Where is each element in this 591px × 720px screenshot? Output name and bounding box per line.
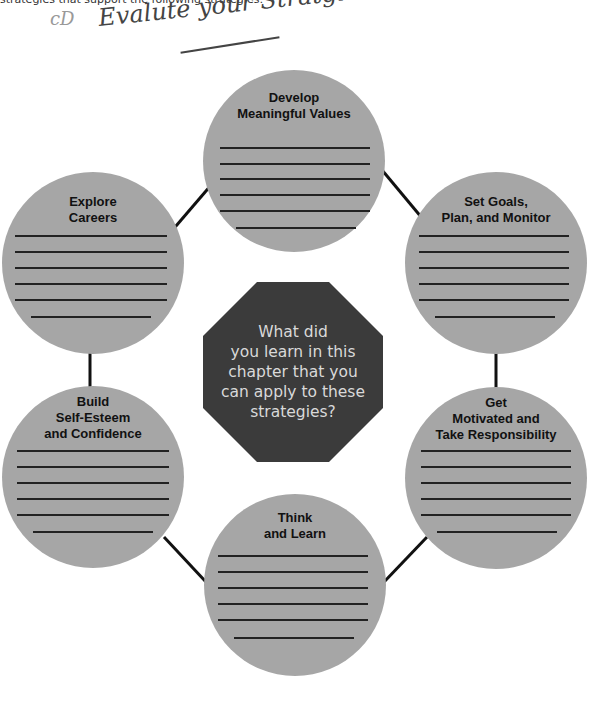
answer-line[interactable] <box>419 283 569 285</box>
answer-line[interactable] <box>220 178 370 180</box>
answer-line[interactable] <box>15 267 167 269</box>
answer-line[interactable] <box>15 283 167 285</box>
answer-line[interactable] <box>234 637 354 639</box>
connector-build-think <box>164 537 206 582</box>
answer-line[interactable] <box>421 450 571 452</box>
answer-line[interactable] <box>236 227 356 229</box>
answer-line[interactable] <box>218 603 368 605</box>
answer-line[interactable] <box>218 571 368 573</box>
answer-line[interactable] <box>17 450 169 452</box>
title-line: Think <box>204 510 386 526</box>
question-line: What did <box>203 322 383 342</box>
circle-set-goals: Set Goals, Plan, and Monitor <box>405 172 587 354</box>
answer-line[interactable] <box>218 555 368 557</box>
circle-explore-careers: Explore Careers <box>2 172 184 354</box>
answer-line[interactable] <box>220 147 370 149</box>
answer-line[interactable] <box>419 235 569 237</box>
title-line: and Learn <box>204 526 386 542</box>
center-question: What did you learn in this chapter that … <box>203 322 383 422</box>
title-line: Meaningful Values <box>203 106 385 122</box>
answer-line[interactable] <box>419 251 569 253</box>
answer-line[interactable] <box>15 251 167 253</box>
answer-line[interactable] <box>17 498 169 500</box>
title-line: Careers <box>2 210 184 226</box>
circle-title: Get Motivated and Take Responsibility <box>405 395 587 443</box>
question-line: you learn in this <box>203 342 383 362</box>
title-line: Take Responsibility <box>405 427 587 443</box>
circle-think-and-learn: Think and Learn <box>204 494 386 676</box>
circle-get-motivated: Get Motivated and Take Responsibility <box>405 387 587 569</box>
question-line: chapter that you <box>203 362 383 382</box>
title-line: Build <box>2 394 184 410</box>
answer-line[interactable] <box>419 267 569 269</box>
answer-line[interactable] <box>33 531 153 533</box>
answer-line[interactable] <box>421 482 571 484</box>
question-line: can apply to these <box>203 382 383 402</box>
connector-getmotivated-think <box>384 537 427 582</box>
answer-line[interactable] <box>421 466 571 468</box>
answer-line[interactable] <box>435 316 555 318</box>
title-line: Set Goals, <box>405 194 587 210</box>
circle-title: Develop Meaningful Values <box>203 90 385 122</box>
circle-title: Set Goals, Plan, and Monitor <box>405 194 587 226</box>
title-line: Develop <box>203 90 385 106</box>
answer-line[interactable] <box>220 194 370 196</box>
question-line: strategies? <box>203 402 383 422</box>
title-line: Self-Esteem <box>2 410 184 426</box>
answer-line[interactable] <box>15 235 167 237</box>
answer-line[interactable] <box>421 498 571 500</box>
circle-build-self-esteem: Build Self-Esteem and Confidence <box>2 386 184 568</box>
circle-develop-meaningful-values: Develop Meaningful Values <box>203 70 385 252</box>
answer-line[interactable] <box>17 482 169 484</box>
title-line: and Confidence <box>2 426 184 442</box>
answer-line[interactable] <box>220 163 370 165</box>
answer-line[interactable] <box>17 466 169 468</box>
circle-title: Explore Careers <box>2 194 184 226</box>
answer-line[interactable] <box>419 299 569 301</box>
title-line: Explore <box>2 194 184 210</box>
center-question-octagon: What did you learn in this chapter that … <box>203 282 383 462</box>
circle-title: Build Self-Esteem and Confidence <box>2 394 184 442</box>
answer-line[interactable] <box>218 619 368 621</box>
answer-line[interactable] <box>220 210 370 212</box>
answer-line[interactable] <box>218 587 368 589</box>
answer-line[interactable] <box>17 514 169 516</box>
answer-line[interactable] <box>31 316 151 318</box>
answer-line[interactable] <box>15 299 167 301</box>
answer-line[interactable] <box>437 531 557 533</box>
title-line: Plan, and Monitor <box>405 210 587 226</box>
answer-line[interactable] <box>421 514 571 516</box>
circle-title: Think and Learn <box>204 510 386 542</box>
title-line: Motivated and <box>405 411 587 427</box>
title-line: Get <box>405 395 587 411</box>
